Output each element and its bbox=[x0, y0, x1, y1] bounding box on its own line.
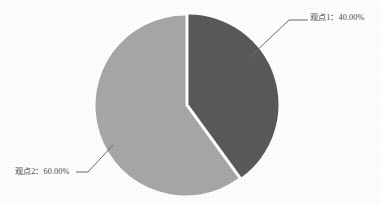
pie-data-label-slice-2: 观点2：60.00% bbox=[15, 167, 69, 177]
pie-data-label-slice-1: 观点1：40.00% bbox=[310, 13, 364, 23]
pie-chart-figure: 观点1：40.00% 观点2：60.00% bbox=[0, 0, 381, 204]
